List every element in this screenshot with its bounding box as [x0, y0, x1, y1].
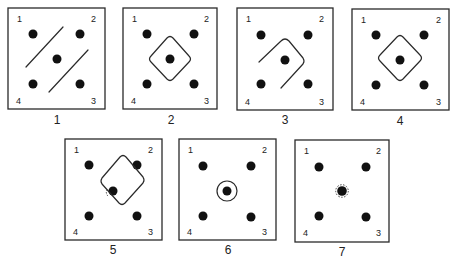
dot-center: [337, 186, 347, 196]
dot-4: [372, 81, 381, 90]
dot-3: [304, 80, 313, 89]
dot-3: [247, 213, 256, 222]
dot-1: [143, 30, 152, 39]
dot-2: [362, 163, 371, 172]
corner-label-1: 1: [17, 14, 22, 24]
diagram-canvas: 1 2 3 4 1 1 2 3 4 2 1 2 3 4: [0, 0, 457, 261]
corner-label-2: 2: [204, 14, 209, 24]
corner-label-1: 1: [74, 145, 79, 155]
corner-label-2: 2: [436, 15, 441, 25]
panel-6: 1 2 3 4: [179, 139, 276, 240]
dot-2: [133, 161, 142, 170]
corner-label-2: 2: [319, 14, 324, 24]
dot-4: [143, 80, 152, 89]
corner-label-3: 3: [319, 97, 324, 107]
panel-7: 1 2 3 4: [295, 140, 389, 242]
dot-4: [85, 212, 94, 221]
corner-label-4: 4: [187, 227, 192, 237]
panel-caption-5: 5: [110, 243, 117, 257]
dot-4: [199, 212, 208, 221]
panel-1: 1 2 3 4: [8, 8, 105, 109]
panel-caption-4: 4: [397, 114, 404, 128]
corner-label-3: 3: [262, 227, 267, 237]
dot-2: [247, 162, 256, 171]
dot-1: [29, 30, 38, 39]
panel-caption-6: 6: [225, 243, 232, 257]
corner-label-2: 2: [376, 146, 381, 156]
corner-label-2: 2: [262, 145, 267, 155]
panel-5: 1 2 3 4: [65, 139, 162, 240]
dot-3: [76, 80, 85, 89]
panel-caption-3: 3: [282, 113, 289, 127]
panel-2: 1 2 3 4: [123, 8, 217, 109]
dot-4: [257, 80, 266, 89]
dot-2: [190, 30, 199, 39]
dot-center: [223, 187, 232, 196]
dot-center: [166, 55, 175, 64]
corner-label-2: 2: [148, 145, 153, 155]
dot-1: [85, 161, 94, 170]
corner-label-3: 3: [148, 227, 153, 237]
dot-4: [29, 80, 38, 89]
panel-3: 1 2 3 4: [237, 8, 333, 110]
corner-label-1: 1: [246, 14, 251, 24]
corner-label-1: 1: [188, 145, 193, 155]
dot-4: [315, 212, 324, 221]
panel-caption-2: 2: [168, 113, 175, 127]
dot-center: [109, 187, 118, 196]
corner-label-1: 1: [304, 146, 309, 156]
dot-center: [281, 56, 290, 65]
corner-label-4: 4: [303, 228, 308, 238]
dot-1: [199, 162, 208, 171]
corner-label-2: 2: [91, 14, 96, 24]
corner-label-3: 3: [91, 96, 96, 106]
panel-4: 1 2 3 4: [352, 9, 449, 110]
corner-label-3: 3: [436, 97, 441, 107]
dot-center: [53, 55, 62, 64]
corner-label-3: 3: [376, 228, 381, 238]
corner-label-1: 1: [361, 15, 366, 25]
corner-label-4: 4: [131, 96, 136, 106]
dot-1: [315, 163, 324, 172]
corner-label-3: 3: [204, 96, 209, 106]
dot-2: [420, 31, 429, 40]
dot-1: [257, 31, 266, 40]
dot-center: [396, 56, 405, 65]
dot-2: [304, 31, 313, 40]
dot-3: [190, 80, 199, 89]
corner-label-4: 4: [73, 227, 78, 237]
corner-label-4: 4: [360, 97, 365, 107]
dot-2: [76, 30, 85, 39]
dot-3: [362, 213, 371, 222]
corner-label-4: 4: [245, 97, 250, 107]
corner-label-1: 1: [132, 14, 137, 24]
dot-3: [133, 212, 142, 221]
panel-caption-1: 1: [54, 113, 61, 127]
dot-3: [420, 81, 429, 90]
corner-label-4: 4: [16, 96, 21, 106]
dot-1: [372, 31, 381, 40]
panel-caption-7: 7: [339, 245, 346, 259]
